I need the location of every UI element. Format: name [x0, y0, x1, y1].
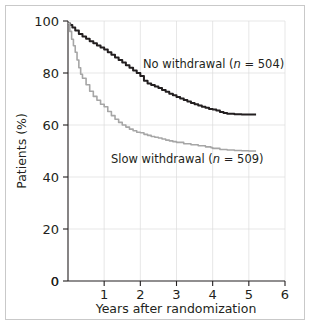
x-tick-label: 4 — [209, 287, 217, 302]
label-text: No withdrawal ( — [143, 57, 234, 71]
x-tick-label: 0 — [51, 274, 59, 289]
x-tick-label: 6 — [281, 287, 289, 302]
data-series — [68, 24, 256, 151]
slow-withdrawal-label: Slow withdrawal (n = 509) — [111, 152, 264, 166]
figure-container: 020406080100 0123456 No withdrawal (n = … — [0, 0, 310, 325]
x-axis-ticks: 0123456 — [51, 274, 289, 303]
label-text: Slow withdrawal ( — [111, 152, 213, 166]
y-tick-label: 60 — [42, 118, 59, 133]
label-n-italic: n — [234, 57, 241, 71]
survival-chart: 020406080100 0123456 No withdrawal (n = … — [0, 0, 310, 325]
x-axis-title: Years after randomization — [95, 301, 257, 316]
y-axis-title: Patients (%) — [14, 113, 29, 189]
label-count: = 504) — [241, 57, 284, 71]
x-tick-label: 2 — [136, 287, 144, 302]
y-tick-label: 100 — [34, 14, 59, 29]
y-axis-ticks: 020406080100 — [34, 14, 68, 289]
x-tick-label: 5 — [245, 287, 253, 302]
y-tick-label: 40 — [42, 170, 59, 185]
y-tick-label: 20 — [42, 222, 59, 237]
x-tick-label: 1 — [100, 287, 108, 302]
label-n-italic: n — [213, 152, 220, 166]
label-count: = 509) — [220, 152, 263, 166]
y-tick-label: 80 — [42, 66, 59, 81]
no-withdrawal-label: No withdrawal (n = 504) — [143, 57, 284, 71]
x-tick-label: 3 — [172, 287, 180, 302]
